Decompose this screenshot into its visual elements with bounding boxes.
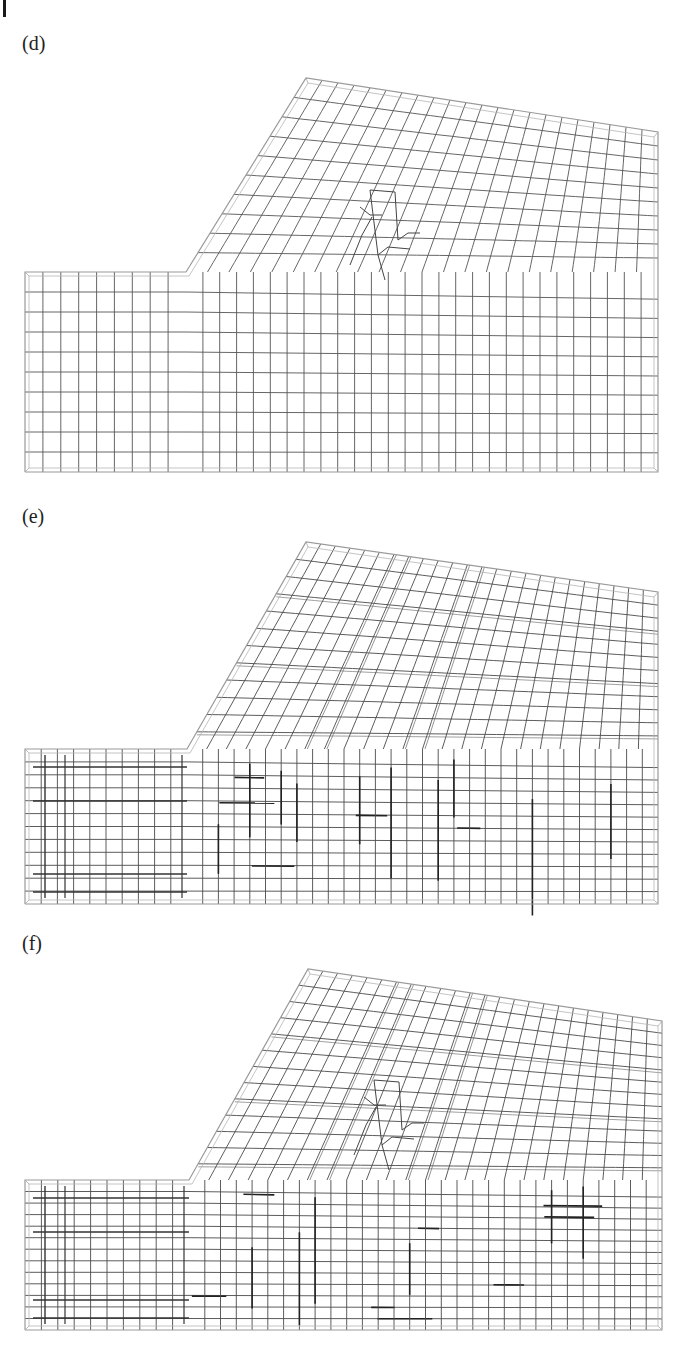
mesh-panel-d <box>25 78 658 472</box>
mesh-panel-f <box>25 969 662 1330</box>
finite-element-mesh-figure <box>0 0 674 1346</box>
mesh-panel-e <box>25 542 658 916</box>
